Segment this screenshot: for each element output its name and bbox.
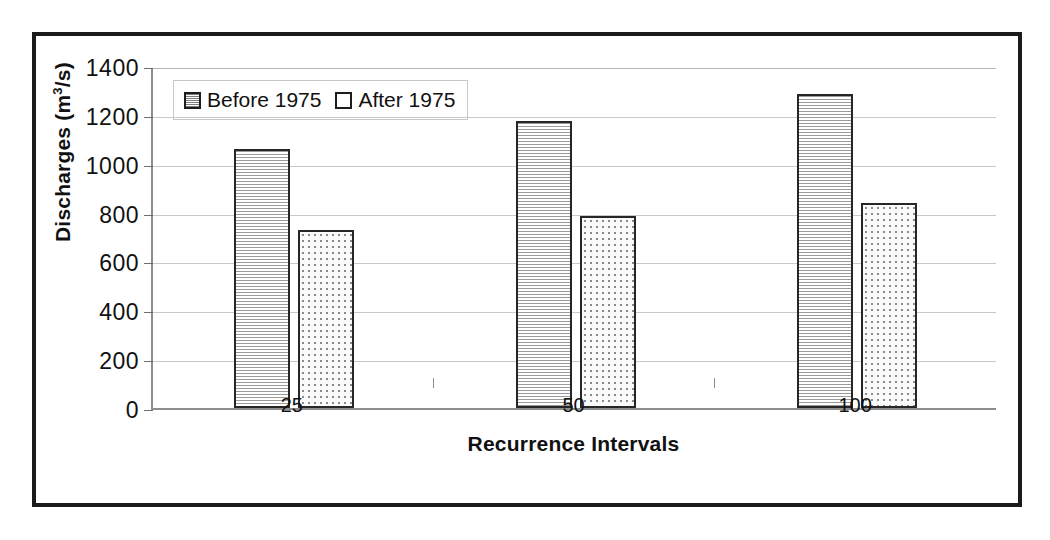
legend-entry-before-1975[interactable]: Before 1975 (184, 88, 321, 112)
y-axis-title: Discharges (m3/s) (50, 62, 75, 242)
x-axis-title: Recurrence Intervals (151, 432, 996, 456)
x-axis-category-label: 25 (281, 394, 303, 417)
legend-label-before-1975: Before 1975 (207, 88, 321, 112)
y-axis-tick-label: 1000 (86, 152, 139, 179)
bar-after-1975-25[interactable] (298, 230, 354, 408)
y-axis-title-prefix: Discharges (m (51, 95, 74, 242)
bar-before-1975-25[interactable] (234, 149, 290, 408)
y-axis-tick-label: 1400 (86, 55, 139, 82)
y-axis-tick (144, 361, 153, 362)
x-axis-major-tick (714, 378, 715, 388)
y-axis-tick-label: 800 (99, 201, 139, 228)
legend-label-after-1975: After 1975 (358, 88, 455, 112)
y-axis-tick-label: 1200 (86, 103, 139, 130)
y-axis-tick (144, 263, 153, 264)
bar-after-1975-50[interactable] (580, 216, 636, 408)
x-axis-category-label: 50 (562, 394, 584, 417)
legend-swatch-after-1975-icon (335, 92, 352, 109)
y-axis-tick-label: 200 (99, 348, 139, 375)
y-axis-tick (144, 166, 153, 167)
bar-before-1975-100[interactable] (797, 94, 853, 408)
chart-legend: Before 1975 After 1975 (173, 80, 468, 120)
chart-page: Discharges (m3/s) Before 1975 After 1975… (0, 0, 1050, 540)
y-axis-tick (144, 68, 153, 69)
plot-area: Before 1975 After 1975 02004006008001000… (151, 68, 996, 410)
y-axis-tick (144, 410, 153, 411)
chart-frame: Discharges (m3/s) Before 1975 After 1975… (32, 32, 1022, 507)
y-axis-tick (144, 215, 153, 216)
bar-before-1975-50[interactable] (516, 121, 572, 408)
y-axis-tick-label: 400 (99, 299, 139, 326)
y-axis-title-superscript: 3 (50, 87, 65, 94)
x-axis-major-tick (433, 378, 434, 388)
y-axis-tick-label: 0 (126, 397, 139, 424)
x-axis-category-label: 100 (838, 394, 871, 417)
gridline (153, 68, 996, 69)
y-axis-title-suffix: /s) (51, 62, 74, 87)
legend-swatch-before-1975-icon (184, 92, 201, 109)
y-axis-tick (144, 312, 153, 313)
gridline (153, 117, 996, 118)
legend-entry-after-1975[interactable]: After 1975 (335, 88, 455, 112)
y-axis-tick-label: 600 (99, 250, 139, 277)
y-axis-tick (144, 117, 153, 118)
bar-after-1975-100[interactable] (861, 203, 917, 408)
